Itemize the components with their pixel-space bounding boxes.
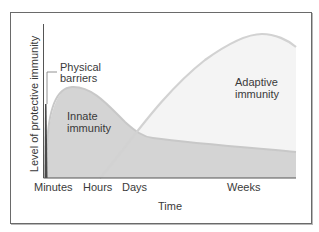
- innate-immunity-label-line1: Innate: [67, 110, 98, 122]
- x-axis-label: Time: [158, 200, 182, 212]
- physical-barriers-label-line2: barriers: [60, 72, 97, 84]
- innate-immunity-label-line2: immunity: [67, 122, 111, 134]
- adaptive-immunity-label-line2: immunity: [235, 88, 279, 100]
- immunity-chart: [0, 0, 319, 232]
- x-tick-hours: Hours: [83, 181, 112, 193]
- x-tick-minutes: Minutes: [34, 181, 73, 193]
- adaptive-immunity-label-line1: Adaptive: [235, 76, 278, 88]
- x-tick-weeks: Weeks: [227, 181, 260, 193]
- x-tick-days: Days: [122, 181, 147, 193]
- y-axis-label: Level of protective immunity: [28, 36, 40, 172]
